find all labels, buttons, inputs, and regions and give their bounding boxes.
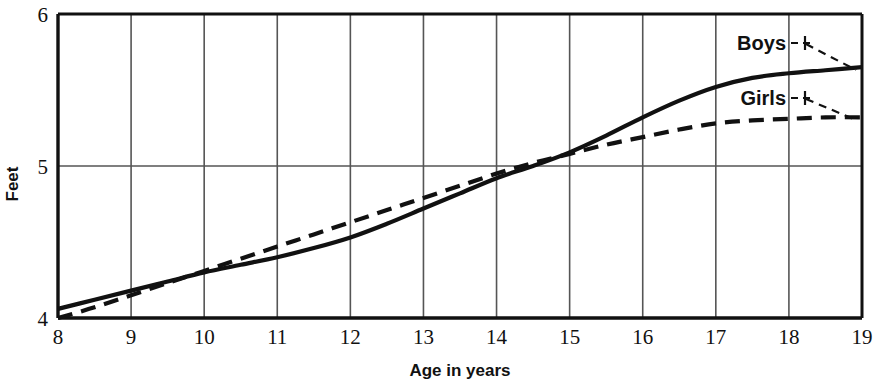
y-tick-label: 5 <box>38 155 49 179</box>
boys-series-label: Boys <box>737 32 786 54</box>
x-axis-title: Age in years <box>409 361 510 380</box>
y-tick-labels: 456 <box>38 3 49 331</box>
x-tick-label: 16 <box>632 325 653 349</box>
x-tick-label: 13 <box>413 325 434 349</box>
x-tick-label: 18 <box>778 325 799 349</box>
x-tick-label: 8 <box>53 325 64 349</box>
y-axis-title: Feet <box>3 166 22 201</box>
x-tick-label: 10 <box>194 325 215 349</box>
x-tick-label: 12 <box>340 325 361 349</box>
y-tick-label: 4 <box>38 307 49 331</box>
x-tick-label: 11 <box>267 325 287 349</box>
growth-chart: 8910111213141516171819 456 Age in years … <box>0 0 881 388</box>
x-tick-label: 19 <box>852 325 873 349</box>
x-tick-label: 17 <box>705 325 726 349</box>
girls-series-label: Girls <box>740 87 786 109</box>
x-tick-label: 9 <box>126 325 137 349</box>
y-tick-label: 6 <box>38 3 49 27</box>
chart-canvas: 8910111213141516171819 456 Age in years … <box>0 0 881 388</box>
x-tick-label: 15 <box>559 325 580 349</box>
x-tick-label: 14 <box>486 325 508 349</box>
x-tick-labels: 8910111213141516171819 <box>53 325 873 349</box>
